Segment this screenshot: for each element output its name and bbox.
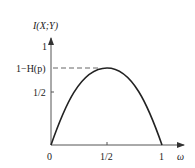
y-tick-peak-label: 1−H(p)	[16, 63, 46, 75]
chart: I(X;Y) 1 1−H(p) 1/2 0 1/2 1 ω	[0, 0, 195, 168]
x-tick-1-label: 1	[159, 151, 164, 162]
x-tick-0-label: 0	[47, 151, 52, 162]
mutual-information-curve	[51, 68, 162, 145]
y-tick-1-label: 1	[42, 41, 47, 52]
y-tick-half-label: 1/2	[33, 87, 46, 98]
y-axis-label: I(X;Y)	[32, 20, 59, 32]
x-axis-label: ω	[177, 151, 184, 162]
x-tick-half-label: 1/2	[100, 151, 113, 162]
